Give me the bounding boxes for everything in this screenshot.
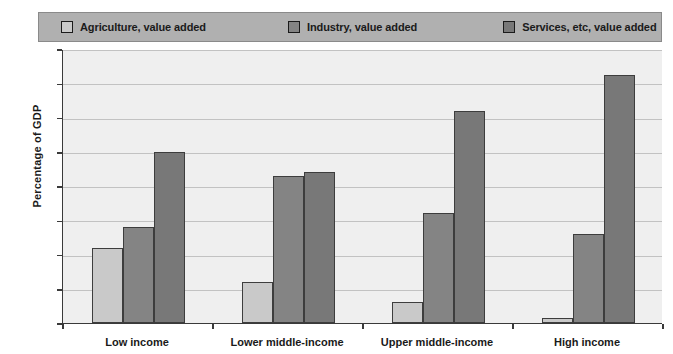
bar: [123, 227, 154, 323]
legend-swatch-industry-icon: [288, 21, 300, 33]
bar: [423, 213, 454, 323]
legend-item-services: Services, etc, value added: [503, 21, 656, 33]
y-tick-mark: [57, 118, 62, 120]
y-axis-title: Percentage of GDP: [31, 76, 43, 236]
bar: [573, 234, 604, 323]
x-tick-label: Upper middle-income: [381, 336, 493, 348]
y-tick-mark: [57, 289, 62, 291]
y-tick-mark: [57, 152, 62, 154]
legend-item-agriculture: Agriculture, value added: [61, 21, 206, 33]
bars-layer: [63, 50, 662, 323]
bar: [454, 111, 485, 323]
x-tick-label: High income: [554, 336, 620, 348]
legend-item-industry: Industry, value added: [288, 21, 417, 33]
plot-area: [62, 50, 662, 324]
x-tick-mark: [62, 324, 64, 329]
legend-swatch-agriculture-icon: [61, 21, 73, 33]
y-tick-mark: [57, 221, 62, 223]
bar: [392, 302, 423, 323]
bar: [542, 318, 573, 323]
x-tick-label: Lower middle-income: [230, 336, 343, 348]
legend-swatch-services-icon: [503, 21, 515, 33]
legend-label-industry: Industry, value added: [307, 21, 417, 33]
bar: [604, 75, 635, 323]
legend-label-services: Services, etc, value added: [522, 21, 656, 33]
legend-label-agriculture: Agriculture, value added: [80, 21, 206, 33]
chart-figure: Agriculture, value added Industry, value…: [0, 0, 673, 354]
x-tick-mark: [362, 324, 364, 329]
bar: [154, 152, 185, 323]
x-tick-mark: [512, 324, 514, 329]
y-tick-mark: [57, 84, 62, 86]
bar: [273, 176, 304, 323]
bar: [242, 282, 273, 323]
y-tick-mark: [57, 186, 62, 188]
bar: [92, 248, 123, 323]
y-tick-mark: [57, 49, 62, 51]
chart-legend: Agriculture, value added Industry, value…: [38, 12, 662, 42]
y-tick-mark: [57, 255, 62, 257]
x-tick-label: Low income: [105, 336, 169, 348]
x-tick-mark: [212, 324, 214, 329]
plot-wrapper: 01020304050607080 Low incomeLower middle…: [62, 50, 662, 324]
x-tick-mark: [662, 324, 664, 329]
bar: [304, 172, 335, 323]
